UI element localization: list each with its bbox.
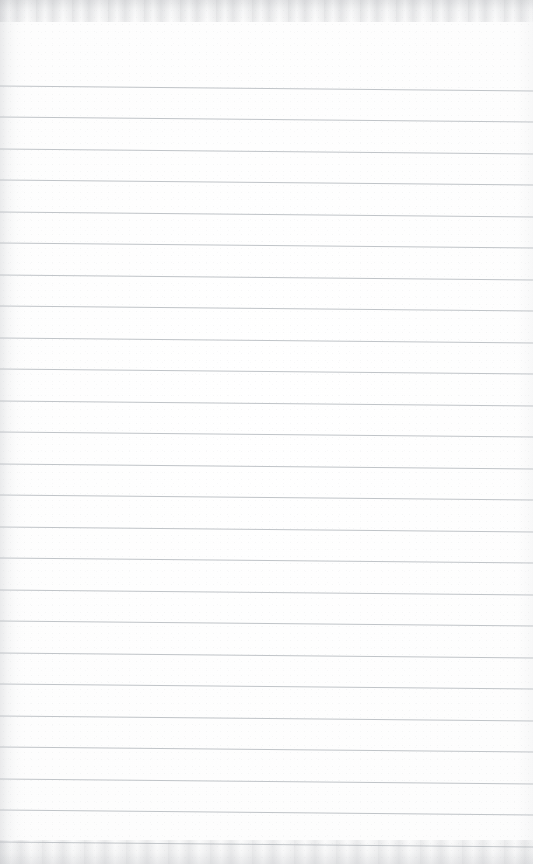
paper-background xyxy=(0,0,533,864)
scanned-page xyxy=(0,0,533,864)
